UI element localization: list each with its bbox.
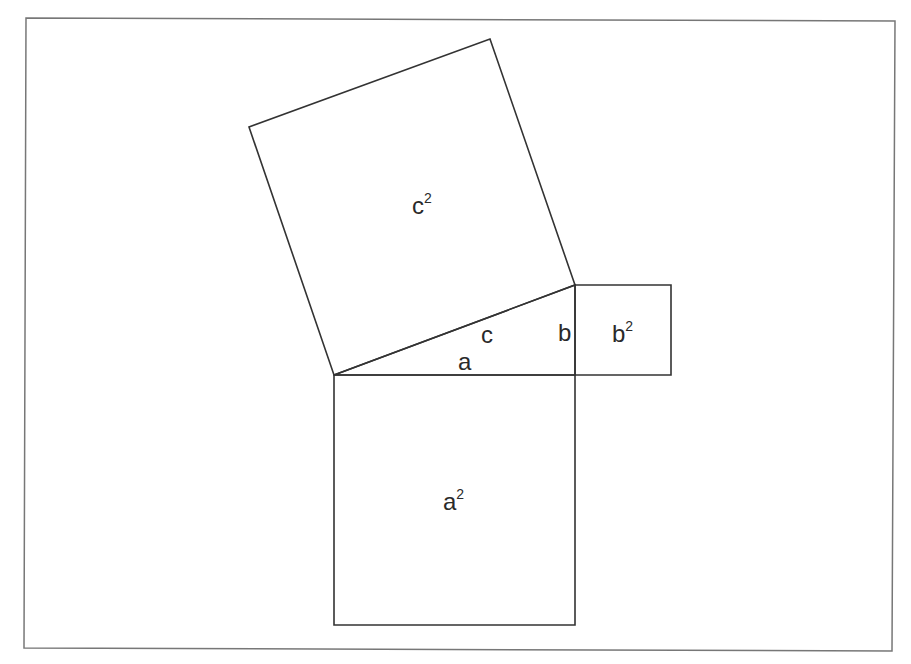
label-a-squared-exp: 2 [456, 486, 464, 502]
pythagorean-diagram: c2 a2 b2 a c b [0, 0, 911, 664]
outer-frame [24, 18, 895, 651]
label-side-c: c [481, 321, 493, 348]
label-b-squared-exp: 2 [625, 318, 633, 334]
label-b-squared: b2 [612, 318, 633, 347]
label-c-squared-base: c [412, 192, 424, 219]
label-c-squared: c2 [412, 190, 432, 219]
label-a-squared: a2 [443, 486, 464, 515]
right-triangle [334, 285, 575, 375]
label-side-b: b [558, 319, 571, 346]
label-c-squared-exp: 2 [424, 190, 432, 206]
label-b-squared-base: b [612, 320, 625, 347]
label-side-a: a [458, 348, 472, 375]
label-a-squared-base: a [443, 488, 457, 515]
